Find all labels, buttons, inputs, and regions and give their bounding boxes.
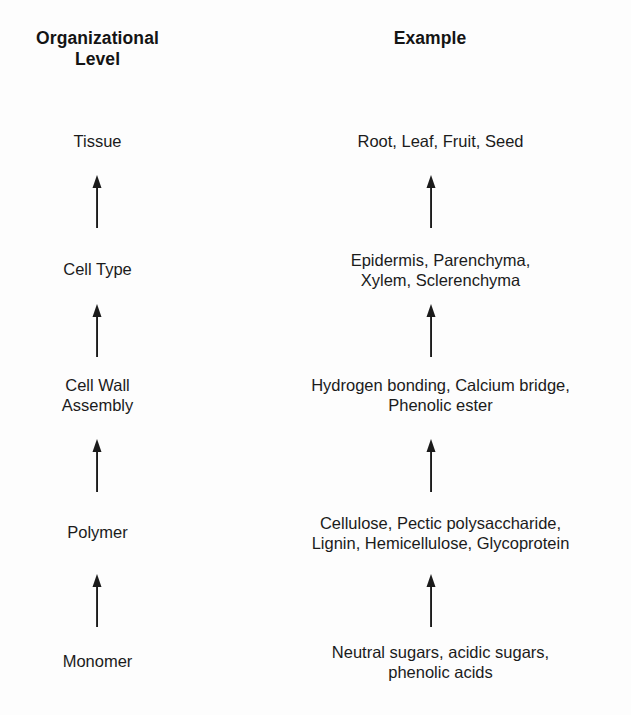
arrow-up-icon — [92, 439, 103, 492]
example-label-cell-type: Epidermis, Parenchyma, Xylem, Sclerenchy… — [250, 251, 631, 290]
column-header-example: Example — [330, 28, 530, 49]
arrow-up-icon — [92, 175, 103, 228]
arrow-up-icon — [426, 175, 437, 228]
example-label-tissue: Root, Leaf, Fruit, Seed — [250, 132, 631, 152]
level-label-cell-wall-assembly: Cell Wall Assembly — [0, 376, 195, 415]
arrow-up-icon — [92, 574, 103, 627]
arrow-up-icon — [426, 574, 437, 627]
level-label-tissue: Tissue — [0, 132, 195, 152]
example-label-monomer: Neutral sugars, acidic sugars, phenolic … — [250, 643, 631, 682]
level-label-cell-type: Cell Type — [0, 260, 195, 280]
arrow-up-icon — [426, 439, 437, 492]
example-label-cell-wall-assembly: Hydrogen bonding, Calcium bridge, Phenol… — [250, 376, 631, 415]
arrow-up-icon — [92, 304, 103, 357]
diagram-canvas: Organizational Level Example Tissue Root… — [0, 0, 631, 715]
level-label-monomer: Monomer — [0, 652, 195, 672]
level-label-polymer: Polymer — [0, 523, 195, 543]
example-label-polymer: Cellulose, Pectic polysaccharide, Lignin… — [250, 514, 631, 553]
arrow-up-icon — [426, 304, 437, 357]
column-header-organizational-level: Organizational Level — [0, 28, 195, 70]
